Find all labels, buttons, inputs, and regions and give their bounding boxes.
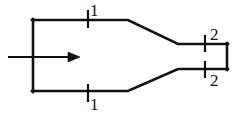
nozzle-drawing [0, 0, 243, 122]
station-2-bottom-label: 2 [210, 72, 219, 89]
station-1-bottom-label: 1 [90, 96, 99, 113]
lower-wall-path [32, 69, 228, 91]
station-1-top-label: 1 [90, 2, 99, 19]
nozzle-diagram: 1 1 2 2 [0, 0, 243, 122]
flow-arrow-head [68, 52, 80, 62]
station-2-top-label: 2 [210, 26, 219, 43]
upper-wall-path [32, 20, 228, 44]
